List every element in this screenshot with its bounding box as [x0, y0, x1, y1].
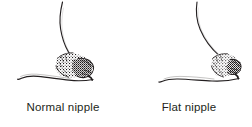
upper-breast-contour [196, 2, 228, 62]
caption-flat-nipple: Flat nipple [126, 100, 252, 114]
lower-breast-contour [18, 76, 93, 81]
nipple-comparison-figure: Normal nipple [0, 0, 252, 127]
lower-contour-secondary [164, 76, 214, 79]
flat-nipple-artwork [126, 0, 252, 100]
figure-panel-normal: Normal nipple [0, 0, 126, 127]
flat-nipple-illustration [126, 0, 252, 100]
nipple-base-shadow [235, 74, 238, 79]
protruding-nipple-illustration [0, 0, 126, 100]
figure-panel-flat: Flat nipple [126, 0, 252, 127]
caption-normal-nipple: Normal nipple [0, 100, 126, 114]
normal-nipple-artwork [0, 0, 126, 100]
lower-breast-contour [159, 79, 239, 83]
